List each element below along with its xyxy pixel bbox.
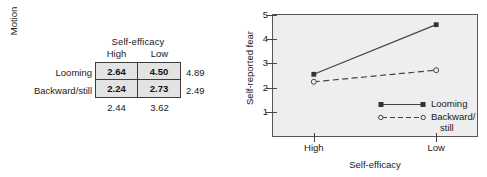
x-tick-mark-high [314,133,315,142]
legend-label-backward-line2: still [431,122,475,133]
data-point-marker [434,22,439,27]
table-cell-looming-high: 2.64 [96,63,138,80]
x-axis-title: Self-efficacy [272,159,478,170]
interaction-figure: Self-efficacy High Low Motion Looming Ba… [0,0,487,177]
table-column-margin-low: 3.62 [138,102,181,113]
y-tick-mark-2 [266,88,277,89]
means-table-grid: 2.64 4.50 2.24 2.73 [95,62,181,98]
data-point-marker [434,68,439,73]
table-column-margin-high: 2.44 [95,102,138,113]
table-column-group-label: Self-efficacy [95,36,181,47]
table-column-header-low: Low [138,48,181,59]
data-point-marker [311,72,316,77]
table-cell-backward-high: 2.24 [96,80,138,97]
table-row-margin-looming: 4.89 [186,67,216,78]
y-tick-mark-5 [266,15,277,16]
table-row-header-backward-still: Backward/still [20,85,92,96]
means-table-panel: Self-efficacy High Low Motion Looming Ba… [0,0,240,177]
legend-swatch-looming [378,104,426,106]
legend-label-looming: Looming [431,98,467,109]
table-row-header-looming: Looming [20,67,92,78]
table-row-group-label: Motion [8,0,26,51]
legend-item-backward-still: Backward/ still [378,112,482,136]
table-cell-looming-low: 4.50 [138,63,180,80]
data-point-marker [311,79,316,84]
legend-label-backward-line1: Backward/ [431,111,475,122]
legend-swatch-backward-still [378,117,426,119]
y-tick-mark-4 [266,39,277,40]
chart-legend: Looming Backward/ still [378,99,482,136]
y-tick-mark-3 [266,63,277,64]
series-line-backward-still [314,70,436,82]
x-tick-label-high: High [291,142,337,153]
table-cell-backward-low: 2.73 [138,80,180,97]
y-axis-title: Self-reported fear [244,8,258,128]
y-tick-mark-1 [266,112,277,113]
legend-label-backward-still: Backward/ still [431,111,475,133]
interaction-line-chart: 5 4 3 2 1 High Low Self-efficacy Self-re… [240,0,487,177]
series-line-looming [314,25,436,75]
table-row-margin-backward: 2.49 [186,85,216,96]
x-tick-label-low: Low [413,142,459,153]
table-column-header-high: High [95,48,138,59]
